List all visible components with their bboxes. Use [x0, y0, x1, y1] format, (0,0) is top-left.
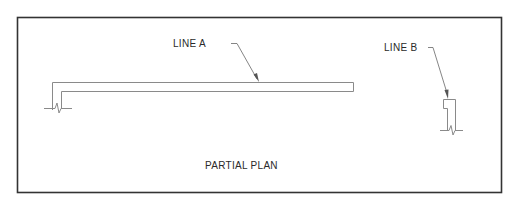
drawing-canvas: LINE A LINE B PARTIAL PLAN: [0, 0, 519, 204]
partial-plan-drawing: LINE A LINE B PARTIAL PLAN: [0, 0, 519, 204]
drawing-title: PARTIAL PLAN: [205, 160, 278, 171]
line-a-element: [44, 83, 354, 114]
label-line-a: LINE A: [173, 38, 206, 49]
leader-line-a: [231, 44, 259, 83]
break-line-a: [44, 103, 72, 113]
break-line-b: [440, 126, 463, 136]
arrowhead-icon: [254, 73, 260, 82]
arrowhead-icon: [445, 90, 449, 100]
line-b-element: [440, 100, 463, 136]
label-line-b: LINE B: [384, 42, 418, 53]
leader-line-b: [428, 48, 449, 100]
